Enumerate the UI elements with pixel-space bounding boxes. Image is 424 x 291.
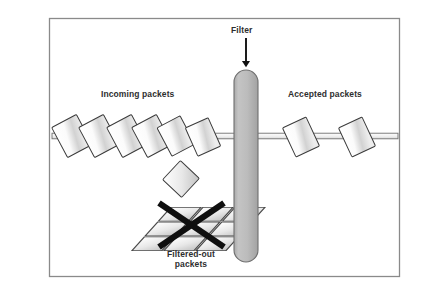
accepted-packets-label: Accepted packets: [288, 89, 362, 99]
diagram-canvas: [0, 0, 424, 291]
filtered-out-label-line1: Filtered-out: [151, 249, 231, 259]
packet-filter-diagram: Filter Incoming packets Accepted packets…: [0, 0, 424, 291]
filtered-out-label-line2: packets: [151, 259, 231, 269]
incoming-packets-label: Incoming packets: [101, 89, 174, 99]
filter-label: Filter: [231, 25, 252, 35]
filter-bar: [234, 70, 258, 262]
filtered-out-packets-label: Filtered-out packets: [151, 249, 231, 269]
